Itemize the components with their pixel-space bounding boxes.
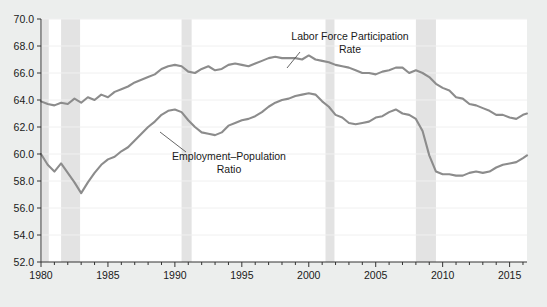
x-tick-label-2000: 2000 <box>297 269 321 281</box>
y-tick-label-52.0: 52.0 <box>14 256 35 268</box>
x-tick-label-1995: 1995 <box>230 269 254 281</box>
y-tick-label-58.0: 58.0 <box>14 175 35 187</box>
lfpr-label-line-1: Rate <box>339 43 361 55</box>
epop-label-line-1: Ratio <box>217 163 242 175</box>
epop-label-line-0: Employment–Population <box>172 150 286 162</box>
recession-1981-82 <box>61 19 80 262</box>
x-tick-label-2015: 2015 <box>498 269 522 281</box>
y-tick-label-66.0: 66.0 <box>14 67 35 79</box>
x-tick-label-1985: 1985 <box>96 269 120 281</box>
y-tick-label-60.0: 60.0 <box>14 148 35 160</box>
plot-background <box>41 19 527 262</box>
plot-background-group <box>41 19 527 262</box>
recession-2001 <box>326 19 335 262</box>
y-tick-label-54.0: 54.0 <box>14 229 35 241</box>
x-tick-label-2005: 2005 <box>364 269 388 281</box>
recession-1980 <box>42 19 49 262</box>
x-tick-label-1990: 1990 <box>163 269 187 281</box>
y-tick-label-56.0: 56.0 <box>14 202 35 214</box>
x-tick-label-2010: 2010 <box>431 269 455 281</box>
lfpr-label-line-0: Labor Force Participation <box>291 30 408 42</box>
line-chart: 52.054.056.058.060.062.064.066.068.070.0… <box>0 0 547 307</box>
y-tick-label-68.0: 68.0 <box>14 40 35 52</box>
x-tick-label-1980: 1980 <box>29 269 53 281</box>
chart-container: 52.054.056.058.060.062.064.066.068.070.0… <box>0 0 547 307</box>
y-tick-label-62.0: 62.0 <box>14 121 35 133</box>
recession-1990-91 <box>182 19 192 262</box>
y-tick-label-64.0: 64.0 <box>14 94 35 106</box>
y-tick-label-70.0: 70.0 <box>14 13 35 25</box>
